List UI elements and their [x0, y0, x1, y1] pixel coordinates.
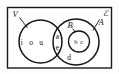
set-label-b: B: [67, 20, 72, 30]
set-label-a: A: [97, 17, 104, 27]
venn-diagram-canvas: V A B ℰ i o u a e b c d: [0, 0, 119, 74]
region-member-a-only: d: [67, 53, 71, 62]
region-members-b-inner: b c: [74, 38, 84, 45]
venn-diagram: V A B ℰ i o u a e b c d: [0, 0, 119, 74]
region-members-v-only: i o u: [21, 38, 45, 47]
